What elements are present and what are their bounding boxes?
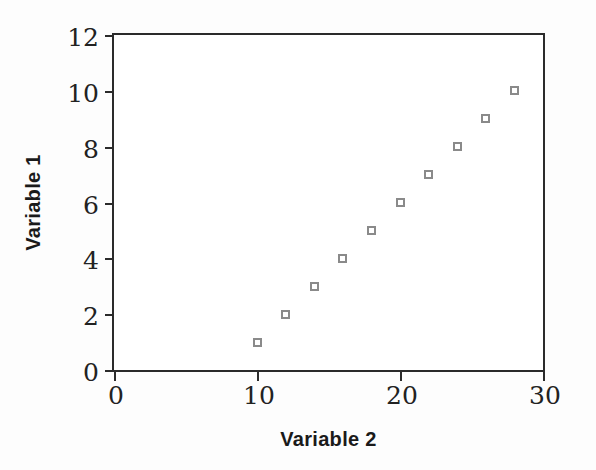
data-point-marker <box>310 282 319 291</box>
y-axis-tick: 4 <box>105 258 114 260</box>
data-point-marker <box>481 114 490 123</box>
y-axis-title: Variable 1 <box>18 33 48 372</box>
y-axis-tick: 2 <box>105 314 114 316</box>
x-axis-tick-label: 0 <box>108 383 124 408</box>
x-axis-title: Variable 2 <box>112 428 545 451</box>
data-point-marker <box>510 86 519 95</box>
y-axis-tick-label: 12 <box>67 25 99 50</box>
y-axis-tick-label: 8 <box>83 136 99 161</box>
x-axis-tick-label: 10 <box>243 383 275 408</box>
data-point-marker <box>453 142 462 151</box>
x-axis-tick: 30 <box>543 370 545 381</box>
x-axis-tick-label: 20 <box>386 383 418 408</box>
y-axis-tick: 6 <box>105 203 114 205</box>
data-point-marker <box>367 226 376 235</box>
scatter-plot-figure: Variable 1 0246810120102030 Variable 2 <box>0 0 596 470</box>
y-axis-tick: 0 <box>105 370 114 372</box>
plot-frame: 0246810120102030 <box>112 33 545 372</box>
data-point-marker <box>281 310 290 319</box>
y-axis-tick: 12 <box>105 35 114 37</box>
x-axis-tick: 10 <box>257 370 259 381</box>
y-axis-tick-label: 6 <box>83 192 99 217</box>
y-axis-tick-label: 0 <box>83 360 99 385</box>
y-axis-tick-label: 2 <box>83 304 99 329</box>
y-axis-title-text: Variable 1 <box>22 154 45 250</box>
y-axis-tick-label: 4 <box>83 248 99 273</box>
data-point-marker <box>253 338 262 347</box>
data-point-marker <box>338 254 347 263</box>
plot-area <box>114 35 543 370</box>
data-point-marker <box>424 170 433 179</box>
y-axis-tick-label: 10 <box>67 80 99 105</box>
x-axis-tick-label: 30 <box>529 383 561 408</box>
x-axis-tick: 20 <box>400 370 402 381</box>
y-axis-tick: 10 <box>105 91 114 93</box>
x-axis-tick: 0 <box>114 370 116 381</box>
data-point-marker <box>396 198 405 207</box>
y-axis-tick: 8 <box>105 147 114 149</box>
